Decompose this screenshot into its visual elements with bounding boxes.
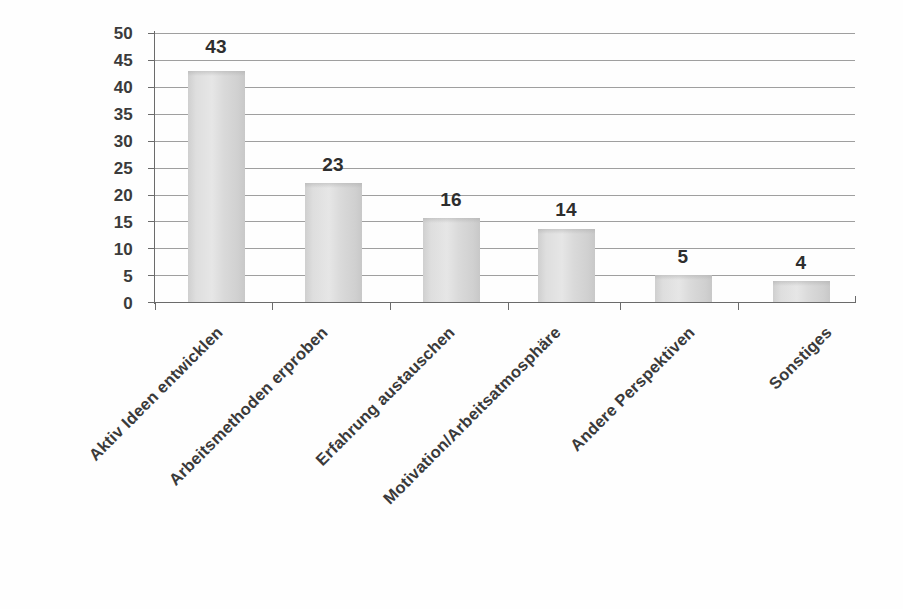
y-axis-tick-label: 50 — [93, 25, 133, 42]
x-axis-tick-mark — [155, 302, 156, 310]
gridline — [155, 33, 855, 34]
bar-sonstiges — [773, 281, 830, 302]
y-axis-tick-label: 5 — [93, 268, 133, 285]
y-axis-tick-label: 0 — [93, 295, 133, 312]
x-axis-end-tick — [855, 296, 856, 303]
bar-value-label: 43 — [205, 37, 227, 56]
bar-arbeitsmethoden-erproben — [305, 183, 362, 302]
gridline — [155, 87, 855, 88]
bar-chart: 50 45 40 35 30 25 20 15 10 5 0 — [0, 0, 903, 609]
gridline — [155, 168, 855, 169]
y-axis-tick-label: 20 — [93, 187, 133, 204]
x-axis-category-label-erfahrung-austauschen: Erfahrung austauschen — [247, 323, 458, 534]
bar-erfahrung-austauschen — [423, 218, 480, 302]
bar-value-label: 4 — [796, 253, 807, 272]
x-axis-tick-mark — [272, 302, 273, 310]
x-axis-tick-mark — [508, 302, 509, 310]
x-axis-tick-mark — [738, 302, 739, 310]
x-axis-tick-mark — [390, 302, 391, 310]
gridline — [155, 248, 855, 249]
bar-value-label: 23 — [322, 155, 344, 174]
gridline — [155, 141, 855, 142]
x-axis-line — [154, 302, 856, 303]
x-axis-category-label-motivation-arbeitsatmosphaere: Motivation/Arbeitsatmosphäre — [346, 323, 564, 541]
y-axis-tick-label: 35 — [93, 106, 133, 123]
y-axis-tick-label: 40 — [93, 79, 133, 96]
gridline — [155, 114, 855, 115]
bar-andere-perspektiven — [655, 275, 712, 302]
bar-value-label: 14 — [555, 200, 577, 219]
y-axis-tick-label: 45 — [93, 52, 133, 69]
y-axis-tick-label: 15 — [93, 214, 133, 231]
y-axis-tick-label: 10 — [93, 241, 133, 258]
plot-area — [155, 33, 855, 302]
gridline — [155, 195, 855, 196]
bar-value-label: 16 — [440, 190, 462, 209]
gridline — [155, 275, 855, 276]
x-axis-category-label-arbeitsmethoden-erproben: Arbeitsmethoden erproben — [120, 323, 331, 534]
y-axis-tick-label: 30 — [93, 133, 133, 150]
bar-motivation-arbeitsatmosphaere — [538, 229, 595, 302]
gridline — [155, 60, 855, 61]
bar-aktiv-ideen-entwicklen — [188, 71, 245, 302]
bar-value-label: 5 — [678, 247, 689, 266]
x-axis-tick-mark — [620, 302, 621, 310]
y-axis-line — [154, 31, 155, 304]
y-axis-tick-label: 25 — [93, 160, 133, 177]
gridline — [155, 221, 855, 222]
